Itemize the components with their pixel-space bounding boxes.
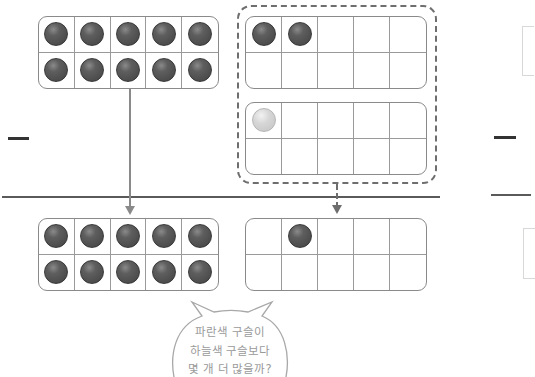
frame-cell (282, 17, 318, 53)
blue-marble-icon (116, 58, 140, 82)
frame-cell (246, 17, 282, 53)
frame-cell (246, 139, 282, 175)
arrow-shaft-left (129, 89, 131, 211)
frame-cell (390, 103, 426, 139)
frame-cell (390, 17, 426, 53)
blue-marble-icon (44, 260, 68, 284)
frame-cell (282, 103, 318, 139)
frame-cell (146, 219, 182, 255)
frame-cell (111, 255, 147, 291)
frame-cell (246, 255, 282, 291)
blue-marble-icon (80, 58, 104, 82)
frame-cell (75, 255, 111, 291)
ten-frame-bottom-right (245, 218, 427, 291)
blue-marble-icon (152, 224, 176, 248)
answer-box-bottom[interactable] (523, 228, 535, 279)
bubble-line-3: 몇 개 더 많을까? (172, 360, 288, 377)
ten-frame-group-b (245, 102, 427, 175)
frame-cell (182, 53, 218, 89)
blue-marble-icon (152, 58, 176, 82)
frame-cell (111, 17, 147, 53)
frame-cell (354, 103, 390, 139)
frame-cell (390, 53, 426, 89)
frame-cell (146, 53, 182, 89)
frame-cell (246, 103, 282, 139)
bubble-line-1: 파란색 구슬이 (172, 323, 288, 342)
frame-cell (318, 103, 354, 139)
frame-cell (354, 53, 390, 89)
ten-frame-group-a (245, 16, 427, 89)
blue-marble-icon (80, 22, 104, 46)
frame-cell (146, 17, 182, 53)
frame-cell (182, 255, 218, 291)
blue-marble-icon (44, 224, 68, 248)
arrow-down-icon (125, 206, 135, 215)
frame-cell (111, 53, 147, 89)
blue-marble-icon (188, 22, 212, 46)
answer-box-top[interactable] (522, 26, 534, 76)
blue-marble-icon (152, 260, 176, 284)
frame-cell (39, 219, 75, 255)
frame-cell (318, 139, 354, 175)
frame-cell (282, 139, 318, 175)
blue-marble-icon (116, 224, 140, 248)
frame-cell (390, 139, 426, 175)
separator-line-left (2, 196, 440, 198)
speech-bubble-text: 파란색 구슬이 하늘색 구슬보다 몇 개 더 많을까? (172, 323, 288, 377)
blue-marble-icon (44, 22, 68, 46)
frame-cell (75, 219, 111, 255)
frame-cell (318, 53, 354, 89)
frame-cell (282, 53, 318, 89)
frame-cell (390, 255, 426, 291)
blue-marble-icon (80, 260, 104, 284)
frame-cell (354, 17, 390, 53)
frame-cell (354, 255, 390, 291)
blue-marble-icon (152, 22, 176, 46)
frame-cell (75, 53, 111, 89)
frame-cell (39, 255, 75, 291)
frame-cell (390, 219, 426, 255)
frame-cell (39, 53, 75, 89)
frame-cell (282, 255, 318, 291)
blue-marble-icon (116, 260, 140, 284)
frame-cell (354, 139, 390, 175)
frame-cell (39, 17, 75, 53)
blue-marble-icon (116, 22, 140, 46)
dashed-arrow-down-icon (332, 205, 342, 214)
frame-cell (75, 17, 111, 53)
frame-cell (246, 53, 282, 89)
separator-line-right (491, 194, 531, 196)
blue-marble-icon (288, 22, 312, 46)
blue-marble-icon (288, 224, 312, 248)
minus-sign-left (8, 137, 29, 140)
frame-cell (182, 219, 218, 255)
blue-marble-icon (252, 22, 276, 46)
blue-marble-icon (188, 260, 212, 284)
ten-frame-bottom-left (38, 218, 219, 291)
frame-cell (318, 219, 354, 255)
blue-marble-icon (188, 58, 212, 82)
frame-cell (282, 219, 318, 255)
blue-marble-icon (188, 224, 212, 248)
blue-marble-icon (44, 58, 68, 82)
frame-cell (318, 17, 354, 53)
frame-cell (318, 255, 354, 291)
ten-frame-top-left (38, 16, 219, 89)
frame-cell (146, 255, 182, 291)
blue-marble-icon (80, 224, 104, 248)
minus-sign-right (494, 136, 516, 139)
frame-cell (111, 219, 147, 255)
frame-cell (182, 17, 218, 53)
bubble-line-2: 하늘색 구슬보다 (172, 342, 288, 361)
frame-cell (246, 219, 282, 255)
frame-cell (354, 219, 390, 255)
skyblue-marble-icon (252, 108, 276, 132)
